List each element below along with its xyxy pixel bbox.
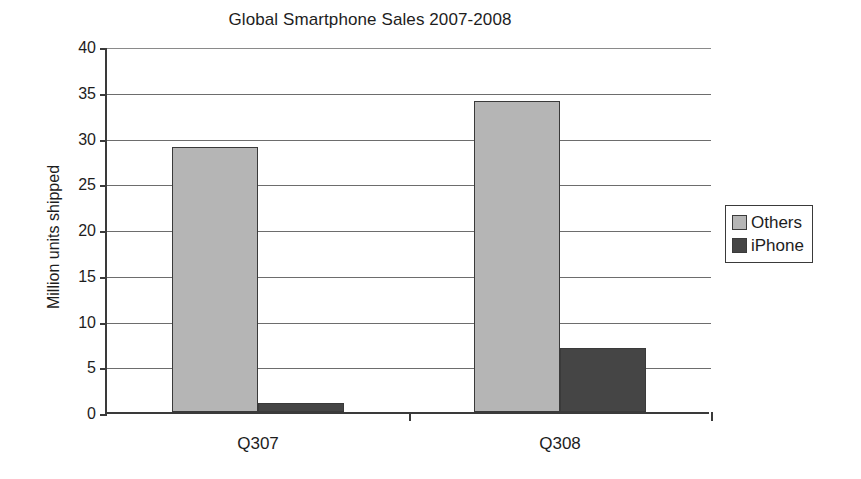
y-tick-label: 35 <box>78 85 96 103</box>
y-tick-label: 10 <box>78 314 96 332</box>
y-tick-mark <box>100 48 107 50</box>
x-tick-mark <box>409 412 411 421</box>
x-tick-mark <box>711 412 713 421</box>
y-tick-mark <box>100 94 107 96</box>
legend-swatch-icon <box>732 215 747 230</box>
y-tick-label: 30 <box>78 131 96 149</box>
y-tick-label: 15 <box>78 268 96 286</box>
gridline <box>107 140 711 141</box>
gridline <box>107 48 711 49</box>
x-tick-label-q308: Q308 <box>539 434 581 454</box>
legend-item-others[interactable]: Others <box>732 211 804 234</box>
y-tick-label: 40 <box>78 39 96 57</box>
legend-item-iphone[interactable]: iPhone <box>732 234 804 257</box>
y-tick-label: 5 <box>87 359 96 377</box>
gridline <box>107 94 711 95</box>
y-tick-label: 25 <box>78 176 96 194</box>
y-tick-label: 20 <box>78 222 96 240</box>
y-tick-mark <box>100 277 107 279</box>
x-tick-label-q307: Q307 <box>237 434 279 454</box>
y-tick-mark <box>100 368 107 370</box>
y-tick-mark <box>100 414 107 416</box>
legend-label: iPhone <box>751 237 804 254</box>
chart-legend: OthersiPhone <box>725 205 813 263</box>
chart-title: Global Smartphone Sales 2007-2008 <box>0 10 740 30</box>
bar-others-q307 <box>172 147 258 412</box>
bar-iphone-q308 <box>560 348 646 412</box>
bar-chart: Global Smartphone Sales 2007-2008 Millio… <box>0 0 861 479</box>
bar-iphone-q307 <box>258 403 344 412</box>
plot-area: 0510152025303540 Q307Q308 <box>105 48 709 414</box>
y-tick-label: 0 <box>87 405 96 423</box>
y-tick-mark <box>100 323 107 325</box>
y-tick-mark <box>100 231 107 233</box>
y-tick-mark <box>100 185 107 187</box>
y-axis-title: Million units shipped <box>45 87 63 387</box>
bar-others-q308 <box>474 101 560 412</box>
y-tick-mark <box>100 140 107 142</box>
legend-label: Others <box>751 214 802 231</box>
legend-swatch-icon <box>732 238 747 253</box>
